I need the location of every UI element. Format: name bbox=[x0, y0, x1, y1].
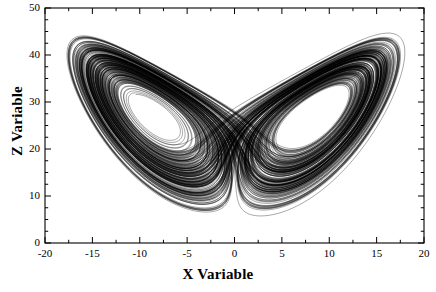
x-tick-label: 10 bbox=[309, 247, 349, 259]
y-tick-label: 50 bbox=[10, 1, 40, 13]
y-axis-title-wrapper: Z Variable bbox=[9, 41, 29, 201]
x-tick-label: 15 bbox=[357, 247, 397, 259]
x-tick-label: 20 bbox=[404, 247, 436, 259]
x-tick-label: -5 bbox=[167, 247, 207, 259]
x-tick-label: 0 bbox=[215, 247, 255, 259]
x-tick-label: -15 bbox=[72, 247, 112, 259]
y-tick-label: 0 bbox=[10, 236, 40, 248]
y-axis-title: Z Variable bbox=[9, 41, 26, 201]
x-tick-label: -10 bbox=[120, 247, 160, 259]
x-axis-title: X Variable bbox=[0, 266, 436, 283]
x-tick-label: 5 bbox=[262, 247, 302, 259]
x-tick-label: -20 bbox=[25, 247, 65, 259]
lorenz-attractor-figure: -20-15-10-505101520 01020304050 X Variab… bbox=[0, 0, 436, 292]
